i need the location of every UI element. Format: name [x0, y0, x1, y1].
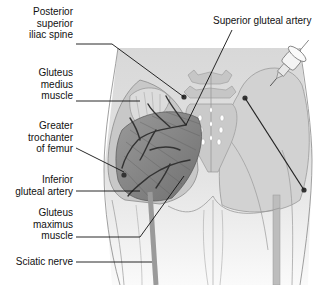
label-gluteus-medius-muscle: Gluteus medius muscle: [39, 67, 73, 102]
label-gluteus-maximus-muscle: Gluteus maximus muscle: [33, 207, 73, 242]
label-superior-gluteal-artery: Superior gluteal artery: [213, 15, 311, 27]
label-inferior-gluteal-artery: Inferior gluteal artery: [15, 174, 73, 197]
label-greater-trochanter-of-femur: Greater trochanter of femur: [28, 120, 73, 155]
label-sciatic-nerve: Sciatic nerve: [16, 256, 73, 268]
label-posterior-superior-iliac-spine: Posterior superior iliac spine: [29, 6, 73, 41]
anatomy-diagram: Posterior superior iliac spine Gluteus m…: [0, 0, 326, 285]
